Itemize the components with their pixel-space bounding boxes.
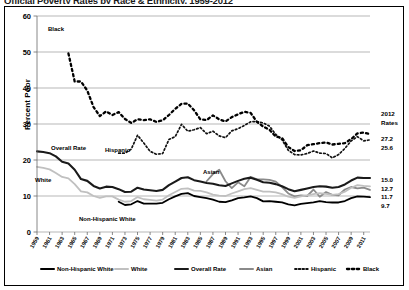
x-tick-label: 1987 <box>205 236 216 250</box>
poverty-rate-line-chart: 0102030405060 19591961196319651967196919… <box>0 0 409 290</box>
x-tick-label: 1979 <box>154 236 165 250</box>
chart-canvas: 0102030405060 19591961196319651967196919… <box>0 0 409 290</box>
annotation-white: White <box>35 177 52 183</box>
y-tick-label: 50 <box>23 48 31 57</box>
legend-label-white: White <box>131 266 148 272</box>
legend-label-black: Black <box>363 266 380 272</box>
x-tick-label: 1977 <box>142 236 153 250</box>
y-tick-label: 20 <box>23 156 31 165</box>
x-tick-label: 1959 <box>29 236 40 250</box>
x-tick-label: 1983 <box>179 236 190 250</box>
annotation-non-hispanic-white: Non-Hispanic White <box>79 216 136 222</box>
x-tick-label: 1999 <box>280 236 291 250</box>
x-tick-label: 1969 <box>91 236 102 250</box>
annotation-hispanic: Hispanic <box>105 147 131 153</box>
x-tick-label: 1971 <box>104 236 115 250</box>
annotation-asian: Asian <box>203 169 220 175</box>
x-tick-label: 1993 <box>242 236 253 250</box>
end-value-hispanic: 27.2 <box>381 135 394 142</box>
end-value-asian: 15.0 <box>381 176 394 183</box>
legend-label-non-hispanic-white: Non-Hispanic White <box>57 266 114 272</box>
annotation-overall-rate: Overall Rate <box>51 145 87 151</box>
x-tick-label: 1985 <box>192 236 203 250</box>
end-panel-header-year: 2012 <box>381 110 395 117</box>
x-tick-label: 2007 <box>330 236 341 250</box>
y-axis-title: Percent Poor <box>23 60 32 150</box>
end-panel-header-label: Rates <box>381 119 398 126</box>
x-tick-label: 1981 <box>167 236 178 250</box>
end-value-non-hispanic-white: 9.7 <box>381 202 390 209</box>
end-value-white: 11.7 <box>381 193 393 200</box>
gridlines <box>37 16 370 232</box>
legend-label-asian: Asian <box>256 266 273 272</box>
x-axis-ticks: 1959196119631965196719691971197319751977… <box>29 232 367 249</box>
legend-label-overall-rate: Overall Rate <box>191 266 227 272</box>
end-value-black: 25.6 <box>381 144 394 151</box>
y-tick-label: 10 <box>23 192 31 201</box>
x-tick-label: 1995 <box>255 236 266 250</box>
x-tick-label: 1965 <box>66 236 77 250</box>
x-tick-label: 1989 <box>217 236 228 250</box>
legend-label-hispanic: Hispanic <box>311 266 337 272</box>
x-tick-label: 2009 <box>343 236 354 250</box>
end-value-panel: 2012Rates27.225.615.012.711.79.7 <box>381 110 398 209</box>
x-tick-label: 2001 <box>293 236 304 250</box>
x-tick-label: 1967 <box>79 236 90 250</box>
x-tick-label: 1975 <box>129 236 140 250</box>
x-tick-label: 1991 <box>230 236 241 250</box>
x-tick-label: 1961 <box>41 236 52 250</box>
end-value-overall-rate: 12.7 <box>381 185 394 192</box>
x-tick-label: 2003 <box>305 236 316 250</box>
x-tick-label: 1963 <box>54 236 65 250</box>
x-tick-label: 1997 <box>267 236 278 250</box>
x-tick-label: 2005 <box>318 236 329 250</box>
x-tick-label: 1973 <box>117 236 128 250</box>
data-series-group <box>37 53 370 205</box>
series-line-hispanic <box>119 121 370 157</box>
chart-legend: Non-Hispanic WhiteWhiteOverall RateAsian… <box>41 266 380 272</box>
annotation-black: Black <box>48 26 65 32</box>
y-tick-label: 0 <box>27 228 31 237</box>
y-tick-label: 60 <box>23 12 31 21</box>
x-tick-label: 2011 <box>356 236 367 250</box>
